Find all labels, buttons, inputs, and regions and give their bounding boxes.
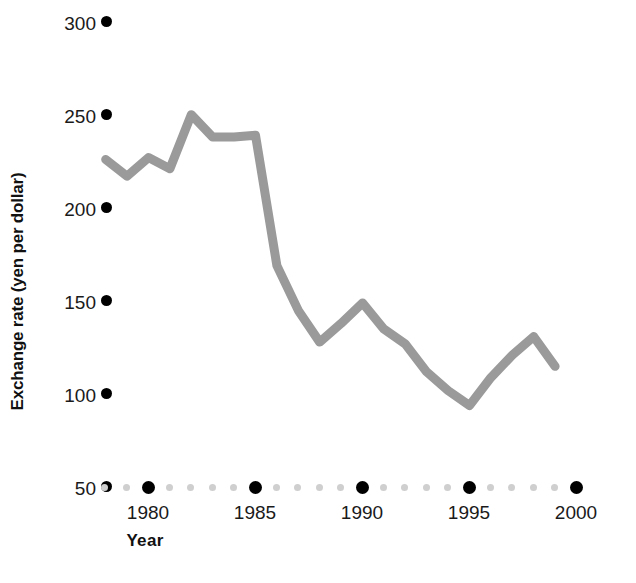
line-chart-plot-area (0, 0, 636, 583)
chart-figure: Exchange rate (yen per dollar) Year 300 … (0, 0, 636, 583)
exchange-rate-line-series (106, 115, 555, 406)
